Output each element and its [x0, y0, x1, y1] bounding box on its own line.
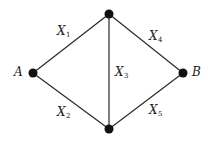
edge-label-x4-sub: 4	[158, 36, 162, 44]
edge-label-x3: X3	[115, 66, 129, 80]
edge-label-x3-sub: 3	[124, 72, 128, 80]
edge-x2	[33, 73, 109, 129]
node-label-a: A	[14, 66, 23, 78]
edge-label-x2-var: X	[57, 105, 66, 119]
edge-label-x5: X5	[149, 104, 163, 118]
node-a	[29, 69, 38, 78]
edge-label-x1-var: X	[57, 24, 66, 38]
edge-label-x3-var: X	[115, 65, 124, 79]
edge-label-x4: X4	[149, 30, 163, 44]
node-bottom	[105, 125, 114, 134]
edge-x5	[109, 73, 183, 129]
network-diagram: A B X1 X2 X3 X4 X5	[0, 0, 214, 144]
edge-label-x5-sub: 5	[158, 110, 162, 118]
edge-label-x2: X2	[57, 106, 71, 120]
edge-label-x5-var: X	[149, 103, 158, 117]
edge-label-x1: X1	[57, 25, 71, 39]
edge-x1	[33, 14, 109, 73]
node-b	[179, 69, 188, 78]
node-label-b: B	[192, 66, 201, 78]
edge-label-x4-var: X	[149, 29, 158, 43]
node-top	[105, 10, 114, 19]
diagram-graphics	[0, 0, 214, 144]
edge-label-x2-sub: 2	[66, 112, 70, 120]
edge-label-x1-sub: 1	[66, 31, 70, 39]
